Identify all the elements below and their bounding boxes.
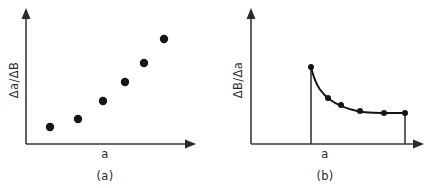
chart-panel-b: ΔB/Δa a (b) xyxy=(219,0,437,188)
curve-markers-b xyxy=(308,64,408,116)
data-point xyxy=(46,123,54,131)
y-axis-label-a: Δa/ΔB xyxy=(7,62,21,99)
panel-caption-b: (b) xyxy=(316,169,333,183)
data-point xyxy=(140,59,148,67)
panel-caption-a: (a) xyxy=(97,169,114,183)
x-axis-arrow-a xyxy=(185,140,196,149)
figure-container: Δa/ΔB a (a) xyxy=(0,0,437,188)
chart-panel-a: Δa/ΔB a (a) xyxy=(0,0,218,188)
y-axis-arrow-b xyxy=(247,8,256,19)
data-point xyxy=(325,95,331,101)
data-point xyxy=(402,110,408,116)
data-point xyxy=(357,108,363,114)
data-point xyxy=(338,102,344,108)
data-point xyxy=(308,64,314,70)
x-axis-label-b: a xyxy=(321,147,328,161)
data-point xyxy=(99,97,107,105)
data-point xyxy=(160,35,168,43)
data-point xyxy=(121,78,129,86)
y-axis-arrow-a xyxy=(22,8,31,19)
x-axis-label-a: a xyxy=(101,147,108,161)
scatter-series-a xyxy=(46,35,168,131)
data-point xyxy=(74,115,82,123)
curve-series-b xyxy=(311,67,405,113)
x-axis-arrow-b xyxy=(413,140,424,149)
y-axis-label-b: ΔB/Δa xyxy=(231,62,245,99)
data-point xyxy=(381,110,387,116)
